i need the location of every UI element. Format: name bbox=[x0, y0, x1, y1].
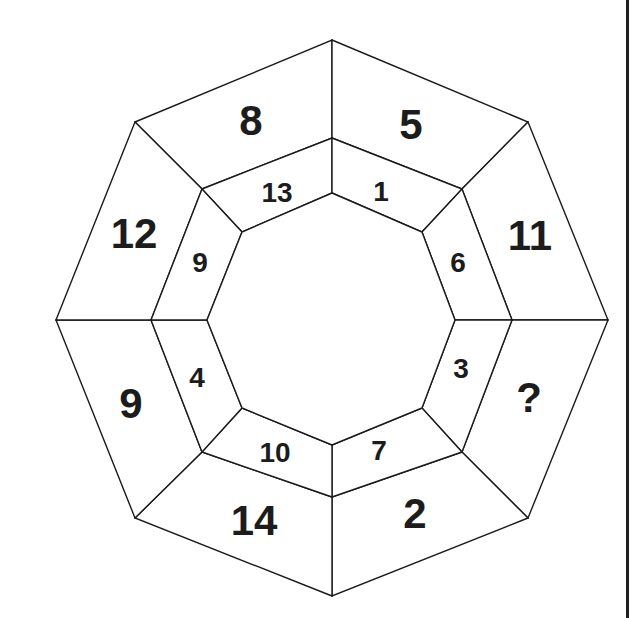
center-octagon bbox=[207, 193, 455, 445]
inner-number-bottom-left: 10 bbox=[259, 437, 290, 468]
octagon-diagram: 8 5 11 ? 2 14 9 12 13 1 6 3 7 10 4 9 bbox=[0, 0, 633, 618]
inner-number-bottom-right: 7 bbox=[371, 435, 387, 466]
outer-number-top-right: 5 bbox=[399, 101, 422, 148]
inner-number-right-upper: 6 bbox=[450, 247, 466, 278]
page-edge-divider bbox=[626, 0, 629, 618]
outer-number-right-upper: 11 bbox=[508, 212, 552, 259]
outer-number-bottom-right: 2 bbox=[403, 490, 426, 537]
inner-number-right-lower: 3 bbox=[453, 353, 469, 384]
inner-number-left-upper: 9 bbox=[192, 247, 208, 278]
inner-number-left-lower: 4 bbox=[189, 362, 205, 393]
octagon-puzzle: 8 5 11 ? 2 14 9 12 13 1 6 3 7 10 4 9 bbox=[0, 0, 633, 618]
inner-number-top-right: 1 bbox=[373, 176, 389, 207]
outer-number-right-lower: ? bbox=[516, 374, 542, 421]
outer-number-top-left: 8 bbox=[239, 97, 262, 144]
outer-number-left-upper: 12 bbox=[111, 210, 158, 257]
inner-number-top-left: 13 bbox=[261, 177, 292, 208]
outer-number-bottom-left: 14 bbox=[231, 497, 278, 544]
outer-number-left-lower: 9 bbox=[119, 380, 142, 427]
